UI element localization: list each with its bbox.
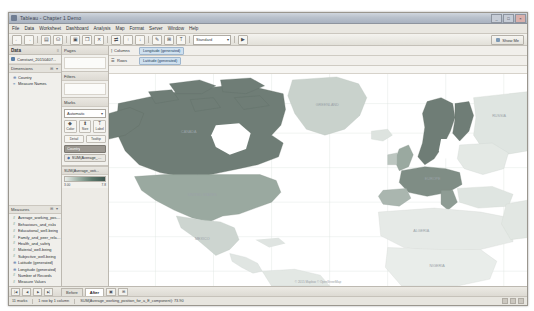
measure-label: Behaviours_and_risks [18, 222, 56, 227]
hash-icon: # [12, 273, 16, 277]
map-label-nigeria: NIGERIA [429, 265, 445, 269]
sort-descending-button[interactable]: ↓ [135, 35, 145, 45]
measure-label: Measure Values [18, 279, 46, 284]
filters-dropzone[interactable] [64, 83, 106, 95]
color-legend: SUM(Average_voti... 3.00 7.8 [62, 166, 108, 188]
datasource-item[interactable]: Constant_20150407... [9, 55, 61, 64]
dimensions-label: Dimensions [11, 66, 33, 71]
presentation-mode-button[interactable]: ▶ [238, 35, 248, 45]
globe-icon: ⊕ [12, 75, 16, 80]
menu-bar: File Data Worksheet Dashboard Analysis M… [9, 24, 527, 34]
show-me-button[interactable]: Show Me [491, 35, 524, 45]
dimension-measure-names[interactable]: ≡ Measure Names [9, 80, 61, 86]
show-mark-labels-button[interactable]: T [176, 35, 186, 45]
mark-pill-label: SUM(Average_w...) [72, 156, 103, 160]
marks-card-body: Automatic ▾ ◆ Color ⬍ Size T [62, 107, 108, 165]
map-label-greenland: GREENLAND [316, 103, 340, 107]
swap-rows-columns-button[interactable]: ⇄ [111, 35, 121, 45]
measure-item[interactable]: #Measure Values [9, 279, 61, 285]
new-dashboard-tab-button[interactable]: ⊞ [118, 288, 128, 296]
dimensions-header: Dimensions ⊞ ▾ [9, 64, 61, 73]
columns-shelf[interactable]: ⫿ Columns Longitude (generated) [109, 46, 527, 56]
new-data-source-button[interactable]: ⛁ [53, 35, 63, 45]
measures-label: Measures [11, 207, 29, 212]
duplicate-sheet-button[interactable]: ❐ [82, 35, 92, 45]
hash-icon: # [12, 235, 16, 239]
menu-item-help[interactable]: Help [189, 26, 198, 31]
filters-label: Filters [64, 74, 75, 79]
new-worksheet-tab-button[interactable]: ▣ [106, 288, 116, 296]
hash-icon: # [12, 241, 16, 245]
save-button[interactable]: ▤ [41, 35, 51, 45]
menu-item-map[interactable]: Map [116, 26, 125, 31]
label-button[interactable]: T Label [93, 120, 106, 133]
sort-ascending-button[interactable]: ↑ [123, 35, 133, 45]
menu-item-data[interactable]: Data [24, 26, 34, 31]
measure-label: Health_and_safety [18, 241, 50, 246]
detail-button[interactable]: Detail [64, 135, 84, 143]
close-button[interactable]: × [515, 14, 526, 23]
back-button[interactable]: ← [12, 35, 22, 45]
grid-icon[interactable] [502, 298, 508, 304]
data-pane-menu-icon[interactable]: ≡ [57, 48, 59, 53]
new-worksheet-button[interactable]: ▣ [70, 35, 80, 45]
filters-card-title: Filters [62, 72, 108, 81]
sheet-tab-after[interactable]: After [85, 288, 104, 296]
size-button[interactable]: ⬍ Size [79, 120, 92, 133]
toolbar: ← → ▤ ⛁ ▣ ❐ ✕ ⇄ ↑ ↓ ✎ ⊞ T Standard ▾ ▶ S… [9, 34, 527, 46]
mark-pill-color-measure[interactable]: ◆ SUM(Average_w...) [64, 154, 106, 162]
show-me-label: Show Me [502, 38, 519, 43]
hash-icon: # [12, 222, 16, 226]
pages-card-title: Pages [62, 46, 108, 55]
country-ireland[interactable] [388, 153, 397, 165]
toolbar-separator [189, 36, 190, 43]
prev-sheet-button[interactable]: ◀ [22, 288, 31, 296]
map-view[interactable]: GREENLAND CANADA UNITED STATES MEXICO RU… [109, 74, 527, 286]
measure-label: Subjective_well-being [18, 254, 56, 259]
group-members-button[interactable]: ⊞ [164, 35, 174, 45]
tooltip-button[interactable]: Tooltip [86, 135, 106, 143]
pill-longitude[interactable]: Longitude (generated) [139, 47, 184, 55]
menu-item-format[interactable]: Format [130, 26, 145, 31]
fit-value: Standard [196, 37, 212, 42]
clear-sheet-button[interactable]: ✕ [94, 35, 104, 45]
menu-item-file[interactable]: File [12, 26, 19, 31]
marks-card: Marks Automatic ▾ ◆ Color ⬍ Si [62, 98, 108, 166]
highlight-button[interactable]: ✎ [152, 35, 162, 45]
data-icon[interactable] [510, 298, 516, 304]
sheet-tab-before[interactable]: Before [61, 288, 83, 296]
mark-pill-country[interactable]: Country [64, 145, 106, 153]
forward-button[interactable]: → [24, 35, 34, 45]
pages-dropzone[interactable] [64, 57, 106, 69]
maximize-button[interactable]: □ [503, 14, 514, 23]
menu-item-worksheet[interactable]: Worksheet [39, 26, 61, 31]
fit-select[interactable]: Standard ▾ [193, 35, 231, 45]
size-label: Size [82, 128, 89, 131]
columns-shelf-pills: Longitude (generated) [137, 47, 527, 55]
measures-menu-icon[interactable]: ⊞ ▾ [50, 207, 59, 211]
menu-item-window[interactable]: Window [168, 26, 184, 31]
menu-item-analysis[interactable]: Analysis [93, 26, 110, 31]
menu-item-dashboard[interactable]: Dashboard [66, 26, 88, 31]
mark-type-select[interactable]: Automatic ▾ [64, 109, 106, 118]
first-sheet-button[interactable]: |◀ [11, 288, 20, 296]
region-north-africa[interactable] [378, 208, 513, 251]
rows-shelf-label-group: ☰ Rows [109, 58, 137, 63]
measures-list: #Average_working_position #Behaviours_an… [9, 214, 61, 286]
globe-icon: ⊕ [12, 260, 16, 265]
last-sheet-button[interactable]: ▶| [44, 288, 53, 296]
color-button[interactable]: ◆ Color [64, 120, 77, 133]
view-column: ⫿ Columns Longitude (generated) ☰ Rows L… [109, 46, 527, 286]
menu-item-server[interactable]: Server [149, 26, 163, 31]
detail-label: Detail [70, 137, 79, 141]
color-icon: ◆ [67, 156, 70, 160]
globe-icon: ⊕ [12, 267, 16, 272]
pill-latitude[interactable]: Latitude (generated) [139, 57, 181, 65]
color-ramp[interactable] [64, 176, 106, 182]
next-sheet-button[interactable]: ▶ [33, 288, 42, 296]
status-aggregate: SUM(Average_working_position_for_a_E_com… [80, 299, 183, 303]
fit-icon[interactable] [518, 298, 524, 304]
minimize-button[interactable]: _ [491, 14, 502, 23]
rows-shelf[interactable]: ☰ Rows Latitude (generated) [109, 56, 527, 66]
dimensions-menu-icon[interactable]: ⊞ ▾ [50, 67, 59, 71]
